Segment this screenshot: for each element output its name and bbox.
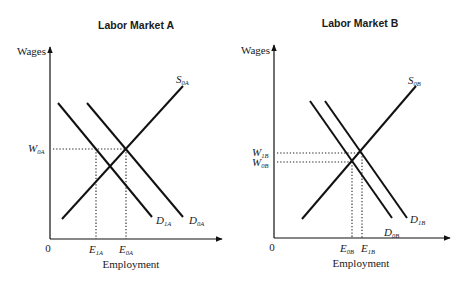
panel-b-origin-label: 0 bbox=[269, 241, 275, 253]
panel-b-title: Labor Market B bbox=[322, 17, 399, 29]
panel-b-demand-new-label: D1B bbox=[409, 213, 425, 226]
panel-b-supply-label: S0B bbox=[408, 74, 421, 87]
panel-a-e1a-label: E1A bbox=[88, 243, 103, 256]
panel-a-y-axis-label: Wages bbox=[17, 45, 46, 57]
panel-b-demand-initial-label: D0B bbox=[383, 226, 399, 239]
panel-b-demand-initial-curve bbox=[310, 101, 392, 218]
panel-a-origin-label: 0 bbox=[45, 242, 51, 254]
panel-a-demand-initial-curve bbox=[87, 103, 183, 217]
panel-a-demand-initial-label: D0A bbox=[188, 214, 204, 227]
panel-a-supply-curve bbox=[62, 86, 183, 219]
panel-b-x-axis-label: Employment bbox=[333, 257, 390, 269]
panel-a-supply-label: S0A bbox=[176, 73, 189, 86]
panel-labor-market-b: Labor Market B Wages 0 Employment S0B D0… bbox=[241, 17, 450, 269]
panel-labor-market-a: Labor Market A Wages 0 Employment S0A D1… bbox=[17, 19, 222, 270]
panel-b-y-axis-label: Wages bbox=[241, 44, 270, 56]
panel-b-e0b-label: E0B bbox=[339, 242, 354, 255]
panel-a-w0a-label: W0A bbox=[28, 142, 44, 155]
panel-a-title: Labor Market A bbox=[98, 19, 174, 31]
labor-market-diagram: Labor Market A Wages 0 Employment S0A D1… bbox=[0, 0, 466, 281]
panel-a-demand-new-curve bbox=[58, 103, 152, 217]
panel-a-demand-new-label: D1A bbox=[155, 214, 171, 227]
panel-b-e1b-label: E1B bbox=[360, 242, 375, 255]
panel-b-demand-new-curve bbox=[325, 101, 407, 218]
panel-a-e0a-label: E0A bbox=[118, 243, 133, 256]
panel-a-x-axis-label: Employment bbox=[103, 258, 160, 270]
